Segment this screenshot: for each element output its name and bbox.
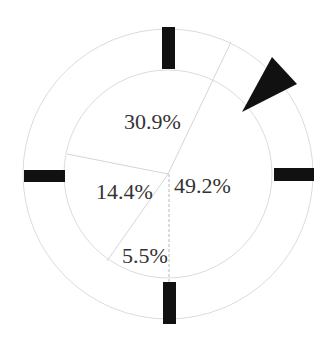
divider-left — [67, 154, 168, 174]
divider-up-right — [168, 42, 231, 174]
tick-left-icon — [24, 170, 65, 182]
pointer-triangle-icon — [242, 57, 297, 112]
label-slice-49-2: 49.2% — [174, 173, 231, 198]
tick-top-icon — [162, 27, 175, 69]
tick-bottom-icon — [163, 282, 176, 324]
label-slice-14-4: 14.4% — [96, 179, 153, 204]
label-slice-5-5: 5.5% — [122, 243, 168, 268]
tick-right-icon — [274, 168, 314, 181]
label-slice-30-9: 30.9% — [124, 109, 181, 134]
pie-chart: 30.9% 14.4% 49.2% 5.5% — [0, 0, 330, 344]
